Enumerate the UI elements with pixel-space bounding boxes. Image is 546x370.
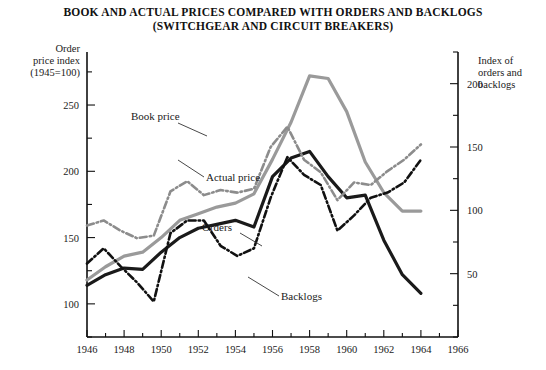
- series-label-backlogs: Backlogs: [281, 290, 322, 302]
- leader-line-actual-price: [178, 160, 204, 177]
- x-tick-label: 1954: [225, 344, 247, 355]
- series-label-actual-price: Actual price: [206, 171, 260, 183]
- x-tick-label: 1960: [336, 344, 357, 355]
- right-tick-label: 200: [467, 79, 483, 90]
- x-tick-label: 1956: [262, 344, 283, 355]
- x-tick-label: 1958: [299, 344, 320, 355]
- series-label-orders: Orders: [202, 221, 232, 233]
- right-tick-label: 50: [467, 269, 478, 280]
- right-tick-label: 100: [467, 205, 483, 216]
- x-tick-label: 1952: [188, 344, 209, 355]
- left-tick-label: 200: [63, 166, 79, 177]
- x-tick-label: 1948: [114, 344, 135, 355]
- chart-root: BOOK AND ACTUAL PRICES COMPARED WITH ORD…: [0, 0, 546, 370]
- x-tick-label: 1964: [410, 344, 432, 355]
- left-tick-label: 150: [63, 233, 79, 244]
- right-tick-label: 150: [467, 142, 483, 153]
- series-label-book-price: Book price: [131, 110, 180, 122]
- x-tick-label: 1950: [151, 344, 172, 355]
- left-tick-label: 250: [63, 100, 79, 111]
- x-tick-label: 1946: [77, 344, 98, 355]
- left-tick-label: 100: [63, 299, 79, 310]
- leader-line-backlogs: [248, 277, 279, 296]
- x-tick-label: 1966: [448, 344, 469, 355]
- axes-layer: 1946194819501952195419561958196019621964…: [63, 52, 483, 355]
- x-tick-label: 1962: [373, 344, 394, 355]
- leader-line-book-price: [178, 123, 207, 136]
- plot-canvas: 1946194819501952195419561958196019621964…: [0, 0, 546, 370]
